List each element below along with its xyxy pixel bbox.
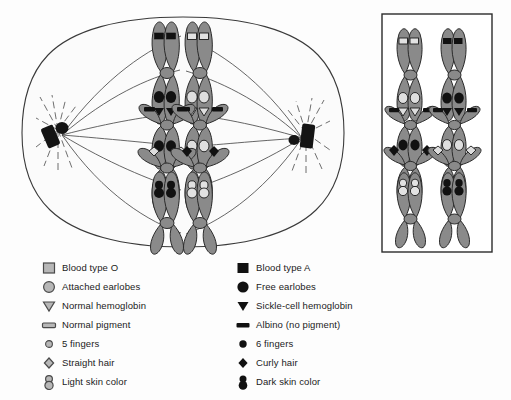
square-icon xyxy=(36,258,62,277)
small-circle-icon xyxy=(230,334,256,353)
legend-label: Attached earlobes xyxy=(62,282,140,292)
diagram-stage: Blood type O Attached earlobes Normal he… xyxy=(0,0,511,400)
legend-item: Normal pigment xyxy=(36,315,146,334)
allele-marker xyxy=(410,179,419,195)
allele-marker xyxy=(398,179,407,195)
circle-icon xyxy=(36,277,62,296)
allele-marker xyxy=(187,181,197,198)
rect-icon xyxy=(36,315,62,334)
legend-label: Blood type O xyxy=(62,263,118,273)
allele-marker xyxy=(433,108,443,112)
allele-marker xyxy=(199,140,209,152)
legend-column-recessive: Blood type O Attached earlobes Normal he… xyxy=(36,258,146,391)
legend-label: Free earlobes xyxy=(256,282,316,292)
allele-marker xyxy=(443,38,452,44)
legend-item: 6 fingers xyxy=(230,334,353,353)
allele-marker xyxy=(177,107,188,112)
legend-item: Free earlobes xyxy=(230,277,353,296)
legend-label: Albino (no pigment) xyxy=(256,320,340,330)
legend-column-dominant: Blood type A Free earlobes Sickle-cell h… xyxy=(230,258,353,391)
alternate-arrangement-inset xyxy=(382,14,492,252)
allele-marker xyxy=(410,140,419,151)
figure-eight-icon xyxy=(36,372,62,391)
allele-marker xyxy=(454,93,464,104)
allele-marker xyxy=(398,140,407,151)
legend-item: Straight hair xyxy=(36,353,146,372)
rect-icon xyxy=(230,315,256,334)
legend-label: Light skin color xyxy=(62,377,127,387)
legend-item: Curly hair xyxy=(230,353,353,372)
allele-marker xyxy=(154,91,164,103)
diamond-icon xyxy=(230,353,256,372)
allele-marker xyxy=(410,93,420,104)
circle-icon xyxy=(230,277,256,296)
legend-item: Light skin color xyxy=(36,372,146,391)
trait-legend: Blood type O Attached earlobes Normal he… xyxy=(30,258,480,393)
allele-marker xyxy=(442,140,451,151)
legend-item: Sickle-cell hemoglobin xyxy=(230,296,353,315)
allele-marker xyxy=(454,140,463,151)
allele-marker xyxy=(442,93,452,104)
legend-item: Albino (no pigment) xyxy=(230,315,353,334)
figure-eight-icon xyxy=(230,372,256,391)
legend-item: 5 fingers xyxy=(36,334,146,353)
legend-item: Blood type A xyxy=(230,258,353,277)
legend-label: Normal hemoglobin xyxy=(62,301,146,311)
allele-marker xyxy=(166,91,176,103)
legend-item: Normal hemoglobin xyxy=(36,296,146,315)
legend-item: Dark skin color xyxy=(230,372,353,391)
allele-marker xyxy=(187,91,197,103)
allele-marker xyxy=(199,181,209,198)
allele-marker xyxy=(410,38,419,44)
allele-marker xyxy=(200,33,209,40)
legend-item: Attached earlobes xyxy=(36,277,146,296)
legend-label: Sickle-cell hemoglobin xyxy=(256,301,353,311)
allele-marker xyxy=(188,33,197,40)
legend-label: Dark skin color xyxy=(256,377,320,387)
triangle-down-icon xyxy=(230,296,256,315)
allele-marker xyxy=(155,33,164,39)
square-icon xyxy=(230,258,256,277)
allele-marker xyxy=(467,108,477,112)
legend-label: Straight hair xyxy=(62,358,115,368)
allele-marker xyxy=(389,108,399,112)
legend-label: Blood type A xyxy=(256,263,311,273)
legend-label: 6 fingers xyxy=(256,339,293,349)
triangle-down-icon xyxy=(36,296,62,315)
allele-marker xyxy=(454,38,463,44)
allele-marker xyxy=(399,38,408,44)
small-circle-icon xyxy=(36,334,62,353)
legend-item: Blood type O xyxy=(36,258,146,277)
legend-label: Normal pigment xyxy=(62,320,130,330)
allele-marker xyxy=(167,33,176,39)
allele-marker xyxy=(398,93,408,104)
legend-label: 5 fingers xyxy=(62,339,99,349)
allele-marker xyxy=(212,107,223,112)
diamond-icon xyxy=(36,353,62,372)
allele-marker xyxy=(199,91,209,103)
legend-label: Curly hair xyxy=(256,358,298,368)
allele-marker xyxy=(144,107,155,112)
